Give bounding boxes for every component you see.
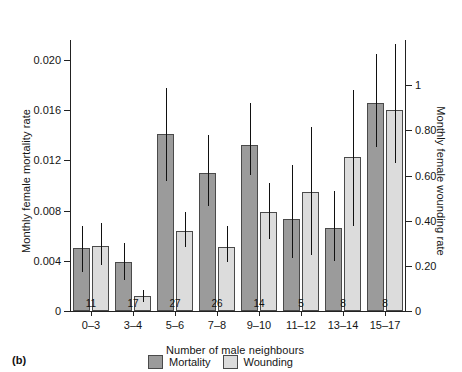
error-bar <box>185 212 186 247</box>
x-axis-tick-label: 15–17 <box>357 319 413 331</box>
y-axis-right-tick-label: 0.20 <box>415 260 436 272</box>
error-bar <box>292 165 293 258</box>
plot-area: 00.0040.0080.0120.0160.020 00.200.400.60… <box>70 40 406 311</box>
error-bar <box>82 226 83 272</box>
x-axis-tick <box>259 311 260 316</box>
y-axis-right-tick <box>405 130 412 131</box>
error-bar <box>311 127 312 255</box>
sample-size-label: 8 <box>370 298 400 309</box>
error-bar <box>208 135 209 205</box>
y-axis-right-tick <box>405 176 412 177</box>
x-axis-tick <box>301 311 302 316</box>
x-axis-tick <box>133 311 134 316</box>
error-bar <box>269 183 270 239</box>
y-axis-right-tick-label: 0.60 <box>415 170 436 182</box>
y-axis-right-tick <box>405 266 412 267</box>
y-axis-right-tick-label: 1 <box>415 79 421 91</box>
x-axis-tick <box>343 311 344 316</box>
y-axis-left-title: Monthly female mortality rate <box>20 81 32 281</box>
error-bar <box>250 103 251 176</box>
y-axis-right-tick <box>405 85 412 86</box>
legend-label: Wounding <box>244 356 293 368</box>
sample-size-label: 11 <box>76 298 106 309</box>
error-bar <box>166 88 167 181</box>
y-axis-left-tick-label: 0.008 <box>33 205 61 217</box>
y-axis-left-tick <box>64 311 71 312</box>
sample-size-label: 8 <box>328 298 358 309</box>
panel-label: (b) <box>12 354 26 366</box>
error-bar <box>101 223 102 264</box>
y-axis-left-line <box>70 40 71 311</box>
error-bar <box>353 90 354 226</box>
y-axis-left-tick-label: 0.016 <box>33 104 61 116</box>
chart-legend: MortalityWounding <box>148 355 293 369</box>
legend-item: Mortality <box>148 355 211 369</box>
sample-size-label: 27 <box>160 298 190 309</box>
legend-label: Mortality <box>169 356 211 368</box>
x-axis-tick <box>175 311 176 316</box>
error-bar <box>124 243 125 279</box>
legend-swatch-mortality <box>148 355 163 369</box>
y-axis-right-tick <box>405 311 412 312</box>
y-axis-left-tick-label: 0.004 <box>33 255 61 267</box>
sample-size-label: 14 <box>244 298 274 309</box>
legend-swatch-wounding <box>223 355 238 369</box>
y-axis-left-tick <box>64 261 71 262</box>
y-axis-left-tick <box>64 160 71 161</box>
y-axis-right-title: Monthly female wounding rate <box>435 81 447 281</box>
x-axis-tick <box>91 311 92 316</box>
legend-item: Wounding <box>223 355 293 369</box>
y-axis-right-tick-label: 0.80 <box>415 124 436 136</box>
sample-size-label: 5 <box>286 298 316 309</box>
error-bar <box>334 191 335 261</box>
error-bar <box>395 44 396 163</box>
y-axis-left-tick <box>64 60 71 61</box>
y-axis-right-tick-label: 0 <box>415 305 421 317</box>
chart-figure: Monthly female mortality rate Monthly fe… <box>0 0 462 372</box>
error-bar <box>376 54 377 147</box>
sample-size-label: 17 <box>118 298 148 309</box>
y-axis-left-tick <box>64 211 71 212</box>
x-axis-tick <box>217 311 218 316</box>
y-axis-left-tick-label: 0.012 <box>33 154 61 166</box>
y-axis-left-tick-label: 0 <box>55 305 61 317</box>
y-axis-left-tick <box>64 110 71 111</box>
y-axis-right-tick-label: 0.40 <box>415 215 436 227</box>
x-axis-line <box>70 311 406 312</box>
sample-size-label: 26 <box>202 298 232 309</box>
error-bar <box>227 226 228 262</box>
y-axis-right-tick <box>405 221 412 222</box>
y-axis-left-tick-label: 0.020 <box>33 54 61 66</box>
x-axis-tick <box>385 311 386 316</box>
